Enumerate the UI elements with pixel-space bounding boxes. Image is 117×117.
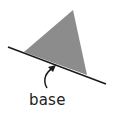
arrow-curve (45, 68, 53, 88)
base-label: base (29, 91, 66, 109)
